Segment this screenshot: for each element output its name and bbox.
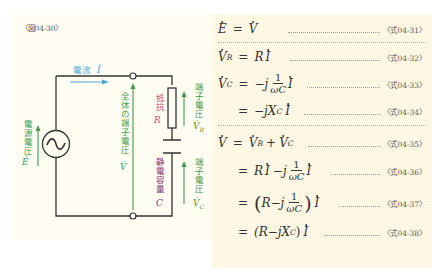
dot-leader [331,174,380,175]
dot-leader [307,87,381,88]
eq-i: I [304,225,309,239]
equation-expression: = RI −j 1ωC I [218,160,311,183]
eq-lhs-sub: R [227,53,233,62]
frac-num: 1 [291,160,301,172]
source-voltage-symbol: Ė [22,157,29,167]
terminal-top-icon [130,73,136,79]
fraction: 1ωC [270,73,286,96]
equation-04-36: = RI −j 1ωC I 〈式04-36〉 [218,156,426,186]
current-label-text: 電流 [73,65,91,75]
eq-lhs: V [218,136,227,150]
eq-equals: = [238,225,248,239]
frac-den: ωC [289,171,305,182]
separator [218,125,426,126]
equation-ref: 〈式04-34〉 [383,106,426,117]
vc-sub: C [200,203,205,210]
frac-num: 1 [273,73,283,85]
resistor-voltage-label: 端子電圧 [193,83,202,119]
dot-leader [304,114,380,115]
eq-equals: = [238,104,248,118]
eq-rhs-b: V [279,136,288,150]
eq-i: I [265,50,270,64]
equation-04-37: = ( R −j 1ωC ) I 〈式04-37〉 [218,188,426,218]
source-voltage-arrow-icon [36,125,41,166]
current-symbol: İ [97,64,101,75]
capacitor-voltage-symbol: V̇C [193,198,204,210]
dot-leader [339,206,380,207]
equation-expression: V = VR + VC [218,136,294,150]
equation-ref: 〈式04-35〉 [383,138,426,149]
vr-sub: R [200,126,205,133]
separator [218,42,426,43]
equation-ref: 〈式04-38〉 [383,227,426,238]
eq-rhs: V [249,22,258,36]
eq-lhs-sub: C [227,80,233,89]
eq-rhs: −jX [254,104,276,118]
source-voltage-label: 電源電圧 [22,120,31,156]
total-voltage-symbol: V̇ [120,162,127,172]
capacitor-voltage-arrow-icon [182,161,187,204]
equation-ref: 〈式04-36〉 [383,166,426,177]
capacitor-label: 静電容量 [154,158,163,194]
eq-plus: + [266,136,276,150]
eq-rhs-sub: C [276,107,282,116]
eq-equals: = [233,22,243,36]
fraction: 1ωC [286,192,302,215]
dot-leader [308,146,381,147]
current-arrow-icon [70,80,109,85]
eq-lhs: V [218,50,227,64]
dot-leader [288,32,381,33]
equation-expression: E = V [218,22,258,36]
paren-close: ) [304,194,311,213]
eq-equals: = [233,136,243,150]
resistor-label: 抵抗 [154,94,163,112]
equation-04-34: = −jXC I 〈式04-34〉 [218,100,426,122]
capacitor-symbol: C [156,198,163,208]
eq-i: I [288,77,293,91]
equation-04-31: E = V 〈式04-31〉 [218,18,426,40]
equation-ref: 〈式04-33〉 [383,79,426,90]
equation-expression: VR = RI [218,50,270,64]
eq-r: R [261,196,270,210]
ac-source-icon [43,131,70,158]
equation-04-38: = (R−jXC) I 〈式04-38〉 [218,221,426,243]
resistor-voltage-arrow-icon [182,91,187,126]
eq-r: R [254,164,263,178]
equation-expression: = (R−jXC) I [218,225,308,239]
eq-r: R [254,50,263,64]
equation-expression: = −jXC I [218,104,290,118]
equation-ref: 〈式04-31〉 [383,24,426,35]
fraction: 1ωC [289,160,305,183]
eq-prefix: −j [254,77,268,91]
total-voltage-label: 全体の端子電圧 [119,92,128,155]
equation-expression: VC = −j 1ωC I [218,73,293,96]
equation-expression: = ( R −j 1ωC ) I [218,192,319,215]
eq-i: I [285,104,290,118]
equation-04-33: VC = −j 1ωC I 〈式04-33〉 [218,70,426,98]
eq-minus-j: −j [273,164,287,178]
capacitor-voltage-label: 端子電圧 [193,158,202,194]
eq-rhs-b-sub: C [288,139,294,148]
eq-rhs: (R−jX [254,225,290,239]
eq-rhs-a: V [249,136,258,150]
eq-lhs: E [218,22,227,36]
equation-04-32: VR = RI 〈式04-32〉 [218,46,426,68]
equation-ref: 〈式04-32〉 [383,52,426,63]
eq-i: I [306,164,311,178]
current-label: 電流 İ [73,63,101,75]
eq-equals: = [238,77,248,91]
eq-i: I [265,164,270,178]
capacitor-icon [163,140,181,153]
eq-equals: = [238,196,248,210]
eq-equals: = [238,50,248,64]
eq-lhs: V [218,77,227,91]
equation-ref: 〈式04-37〉 [383,198,426,209]
resistor-voltage-symbol: V̇R [193,121,204,133]
eq-rhs-a-sub: R [257,139,263,148]
frac-den: ωC [286,203,302,214]
total-voltage-arrow-icon [131,83,136,210]
resistor-symbol: R [154,115,161,125]
frac-num: 1 [289,192,299,204]
equation-04-35: V = VR + VC 〈式04-35〉 [218,132,426,154]
paren-close: ) [296,225,301,239]
